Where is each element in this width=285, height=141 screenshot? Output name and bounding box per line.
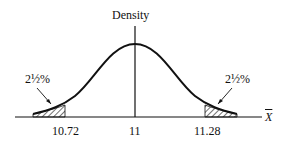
x-axis-label: X [265,110,272,125]
y-axis-label: Density [112,8,149,23]
right-tail-percent: 2½% [225,72,250,87]
left-tail-region [33,105,65,117]
right-tail-region [205,105,237,117]
tick-label-center: 11 [129,124,141,139]
tick-label-right: 11.28 [194,124,221,139]
tick-label-left: 10.72 [52,124,79,139]
left-tail-percent: 2½% [25,72,50,87]
